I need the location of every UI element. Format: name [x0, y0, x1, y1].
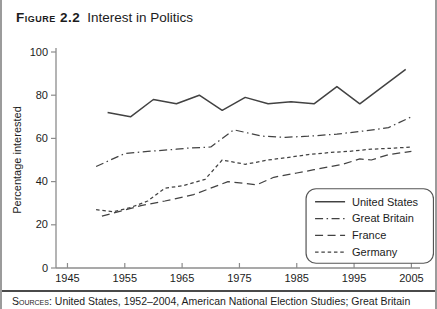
y-axis-title: Percentage interested: [11, 106, 23, 214]
series-line-great-britain: [96, 117, 411, 167]
x-tick-label-1965: 1965: [170, 272, 194, 284]
source-text: United States, 1952–2004, American Natio…: [52, 295, 410, 307]
x-tick-label-1985: 1985: [285, 272, 309, 284]
y-tick-label-60: 60: [36, 132, 48, 144]
y-tick-label-100: 100: [30, 46, 48, 58]
legend-label-great-britain: Great Britain: [352, 212, 414, 224]
figure-title: Figure 2.2Interest in Politics: [16, 8, 193, 26]
x-tick-label-1955: 1955: [113, 272, 137, 284]
source-note: Sources: United States, 1952–2004, Ameri…: [2, 290, 435, 307]
x-tick-label-1945: 1945: [55, 272, 79, 284]
figure-number: Figure 2.2: [16, 10, 80, 25]
x-tick-label-2005: 2005: [399, 272, 423, 284]
figure-name: Interest in Politics: [87, 10, 193, 25]
legend-label-france: France: [352, 229, 386, 241]
x-tick-label-1975: 1975: [227, 272, 251, 284]
figure-box: Figure 2.2Interest in Politics 194519551…: [0, 0, 437, 309]
y-tick-label-0: 0: [42, 262, 48, 274]
legend-label-united-states: United States: [352, 196, 419, 208]
y-tick-label-40: 40: [36, 175, 48, 187]
source-prefix: Sources:: [12, 295, 52, 307]
x-tick-label-1995: 1995: [342, 272, 366, 284]
interest-in-politics-chart: 1945195519651975198519952005020406080100…: [10, 44, 434, 290]
legend-label-germany: Germany: [352, 246, 398, 258]
y-tick-label-80: 80: [36, 89, 48, 101]
y-tick-label-20: 20: [36, 218, 48, 230]
series-line-united-states: [108, 69, 406, 117]
